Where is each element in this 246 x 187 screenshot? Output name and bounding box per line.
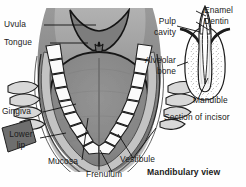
label-uvula: Uvula — [4, 20, 26, 30]
caption-section-of-incisor: Section of incisor — [164, 113, 230, 123]
caption-mandibulary-view: Mandibulary view — [147, 168, 220, 178]
label-lower-lip-line2: lip — [3, 141, 39, 151]
label-alveolar-bone-line2: bone — [130, 67, 176, 77]
label-pulp-cavity-line2: cavity — [142, 28, 176, 38]
label-pulp-cavity-line1: Pulp — [146, 17, 176, 27]
tooth — [49, 59, 64, 74]
tooth — [52, 73, 67, 88]
label-enamel: Enamel — [204, 6, 233, 16]
label-tongue: Tongue — [4, 38, 32, 48]
label-mandible: Mandible — [193, 96, 228, 106]
oral-cavity-figure: Uvula Tongue Gingiva Lower lip Mucosa Fr… — [0, 0, 246, 187]
label-frenulum: Frenulum — [86, 170, 122, 180]
label-gingiva: Gingiva — [2, 107, 31, 117]
label-mucosa: Mucosa — [48, 157, 78, 167]
tooth — [46, 44, 62, 60]
label-alveolar-bone-line1: Alveolar — [130, 56, 176, 66]
label-dentin: Dentin — [204, 17, 229, 27]
label-lower-lip-line1: Lower — [3, 130, 39, 140]
label-vestibule: Vestibule — [120, 155, 155, 165]
